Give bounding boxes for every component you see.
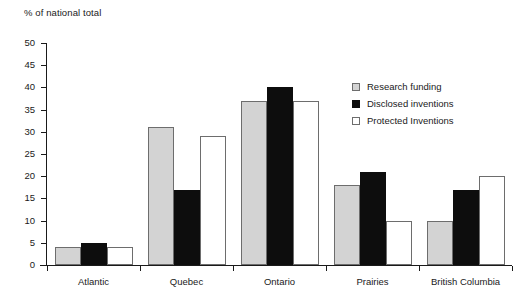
bar (293, 101, 319, 265)
bar (148, 127, 174, 265)
y-axis-tick-label: 45 (0, 59, 35, 70)
chart-legend: Research fundingDisclosed inventionsProt… (352, 78, 454, 129)
legend-swatch-icon (352, 100, 360, 108)
y-axis-tick-label: 30 (0, 126, 35, 137)
x-axis-line (40, 265, 512, 266)
legend-item: Research funding (352, 78, 454, 95)
legend-item-label: Research funding (367, 81, 441, 92)
bar (107, 247, 133, 265)
bar (200, 136, 226, 265)
legend-item-label: Protected Inventions (367, 115, 454, 126)
bar (453, 190, 479, 265)
y-axis-tick-label: 5 (0, 237, 35, 248)
bar (241, 101, 267, 265)
bar (360, 172, 386, 265)
bar (386, 221, 412, 265)
bar (427, 221, 453, 265)
bar (55, 247, 81, 265)
bar (479, 176, 505, 265)
x-axis-tick (140, 266, 141, 271)
x-axis-category-label: Atlantic (78, 276, 109, 287)
x-axis-tick (233, 266, 234, 271)
bar (81, 243, 107, 265)
x-axis-tick (326, 266, 327, 271)
x-axis-tick (419, 266, 420, 271)
y-axis-tick-label: 20 (0, 170, 35, 181)
x-axis-category-label: Quebec (170, 276, 203, 287)
y-axis-tick-label: 15 (0, 192, 35, 203)
y-axis-tick-label: 50 (0, 37, 35, 48)
y-axis-tick-label: 40 (0, 81, 35, 92)
y-axis-tick-label: 0 (0, 259, 35, 270)
legend-item-label: Disclosed inventions (367, 98, 454, 109)
x-axis-tick (512, 266, 513, 271)
bar-chart: % of national total 05101520253035404550… (0, 0, 519, 305)
x-axis-tick (47, 266, 48, 271)
x-axis-category-label: Prairies (356, 276, 388, 287)
legend-swatch-icon (352, 117, 360, 125)
bar (267, 87, 293, 265)
x-axis-category-label: Ontario (264, 276, 295, 287)
y-axis-tick-label: 25 (0, 148, 35, 159)
x-axis-category-label: British Columbia (431, 276, 500, 287)
legend-item: Protected Inventions (352, 112, 454, 129)
bar (334, 185, 360, 265)
y-axis-tick-label: 10 (0, 215, 35, 226)
legend-item: Disclosed inventions (352, 95, 454, 112)
y-axis-tick-label: 35 (0, 104, 35, 115)
plot-area (47, 43, 512, 265)
y-axis-title: % of national total (24, 7, 101, 18)
bar (174, 190, 200, 265)
legend-swatch-icon (352, 83, 360, 91)
